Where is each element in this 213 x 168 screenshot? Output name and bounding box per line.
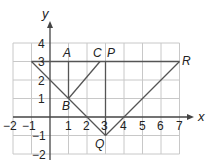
x-tick: 6 [157,119,164,133]
x-tick: 3 [101,119,108,133]
x-tick: −1 [22,119,36,133]
y-axis-arrow-icon [47,21,53,28]
coordinate-plane: y x 4 3 2 1 −1 −2 −2 −1 1 2 3 4 5 6 7 A … [0,0,213,168]
x-tick: −2 [3,119,17,133]
y-tick: −2 [32,148,46,162]
x-tick-labels: −2 −1 1 2 3 4 5 6 7 [3,119,183,133]
y-tick: 3 [38,55,45,69]
x-tick: 1 [65,119,72,133]
y-axis-label: y [41,6,50,21]
point-label-P: P [107,46,115,60]
x-axis-label: x [197,109,205,124]
y-tick: 2 [38,74,45,88]
x-axis-arrow-icon [187,114,194,120]
y-tick-labels: 4 3 2 1 −1 −2 [32,37,46,162]
y-tick: 4 [38,37,45,51]
x-tick: 4 [120,119,127,133]
point-label-R: R [182,54,191,68]
point-label-B: B [62,99,70,113]
point-label-Q: Q [95,137,104,151]
point-label-A: A [62,46,71,60]
x-tick: 2 [83,119,90,133]
point-label-C: C [93,46,102,60]
x-tick: 5 [139,119,146,133]
x-tick: 7 [176,119,183,133]
y-tick: 1 [38,92,45,106]
